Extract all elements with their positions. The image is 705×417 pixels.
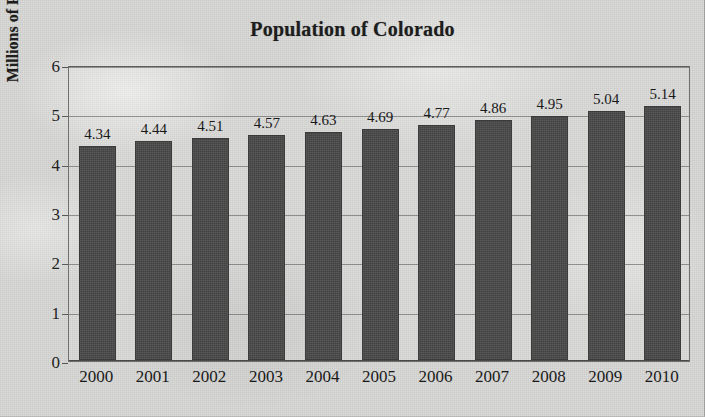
- x-axis-tick-labels: 2000200120022003200420052006200720082009…: [68, 367, 690, 397]
- bar[interactable]: [362, 129, 399, 360]
- x-axis-tick-label: 2010: [631, 367, 693, 387]
- x-axis-tick-label: 2003: [235, 367, 297, 387]
- x-axis-tick-label: 2008: [518, 367, 580, 387]
- bar[interactable]: [475, 120, 512, 360]
- bar-value-label: 4.63: [295, 112, 352, 129]
- y-axis-tick-label: 1: [20, 304, 60, 324]
- bar-value-label: 4.86: [465, 100, 522, 117]
- x-axis-tick-label: 2000: [65, 367, 127, 387]
- y-axis-tick-label: 4: [20, 156, 60, 176]
- bar-value-label: 5.04: [578, 91, 635, 108]
- chart-title: Population of Colorado: [0, 18, 705, 41]
- x-axis-tick-label: 2002: [178, 367, 240, 387]
- x-axis-tick-label: 2006: [405, 367, 467, 387]
- x-axis-line: [69, 360, 689, 361]
- bar-value-label: 4.57: [238, 115, 295, 132]
- y-axis-tick-label: 6: [20, 57, 60, 77]
- plot-area: 4.344.444.514.574.634.694.774.864.955.04…: [68, 66, 690, 362]
- y-axis-tick-label: 2: [20, 254, 60, 274]
- x-axis-tick-label: 2007: [461, 367, 523, 387]
- gridline: [69, 67, 689, 68]
- y-axis-tick-label: 5: [20, 106, 60, 126]
- bar[interactable]: [644, 106, 681, 360]
- bar-value-label: 4.44: [125, 121, 182, 138]
- chart-figure: Population of Colorado Millions of Peopl…: [0, 0, 705, 417]
- bar-value-label: 4.51: [182, 118, 239, 135]
- y-axis-tick-label: 0: [20, 353, 60, 373]
- y-axis-tick-mark: [62, 363, 68, 364]
- y-axis-tick-labels: 0123456: [0, 66, 68, 363]
- x-axis-tick-label: 2005: [348, 367, 410, 387]
- bar-value-label: 4.95: [521, 96, 578, 113]
- x-axis-tick-label: 2004: [291, 367, 353, 387]
- bar[interactable]: [248, 135, 285, 360]
- bar[interactable]: [305, 132, 342, 360]
- bar[interactable]: [192, 138, 229, 360]
- bar-value-label: 5.14: [634, 86, 691, 103]
- x-axis-tick-label: 2009: [574, 367, 636, 387]
- x-axis-tick-label: 2001: [122, 367, 184, 387]
- bar-value-label: 4.69: [352, 109, 409, 126]
- bar[interactable]: [531, 116, 568, 360]
- y-axis-tick-label: 3: [20, 205, 60, 225]
- bar-value-label: 4.34: [69, 126, 126, 143]
- bar[interactable]: [418, 125, 455, 360]
- bar-value-label: 4.77: [408, 105, 465, 122]
- bar[interactable]: [588, 111, 625, 360]
- bar[interactable]: [79, 146, 116, 360]
- bar[interactable]: [135, 141, 172, 360]
